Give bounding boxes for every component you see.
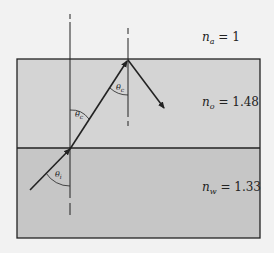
theta-c-upper-label: θc	[116, 83, 124, 93]
water-index-label: nw = 1.33	[202, 180, 261, 196]
oil-index-symbol: n	[202, 95, 210, 109]
oil-index-subscript: o	[210, 102, 215, 111]
water-index-symbol: n	[202, 180, 210, 194]
theta-c-lower-label: θc	[75, 110, 83, 120]
water-index-value: 1.33	[234, 180, 261, 194]
theta-c-upper-subscript: c	[121, 86, 124, 93]
theta-i-subscript: i	[60, 173, 62, 180]
air-index-value: 1	[232, 30, 240, 44]
theta-i-label: θi	[55, 170, 62, 180]
oil-index-label: no = 1.48	[202, 95, 259, 111]
water-index-subscript: w	[210, 187, 217, 196]
refraction-diagram: na = 1 no = 1.48 nw = 1.33 θi θc θc	[0, 0, 274, 253]
air-index-label: na = 1	[202, 30, 240, 46]
air-index-symbol: n	[202, 30, 210, 44]
oil-index-value: 1.48	[232, 95, 259, 109]
air-index-subscript: a	[210, 37, 215, 46]
theta-c-lower-subscript: c	[80, 113, 83, 120]
